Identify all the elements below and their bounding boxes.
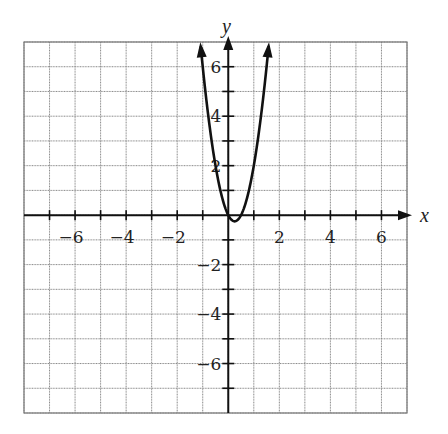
- curve-arrow-icon: [263, 42, 273, 57]
- y-axis-arrow-icon: [223, 36, 233, 50]
- y-tick-label: −6: [196, 354, 221, 374]
- parabola-curve: [197, 42, 273, 221]
- x-tick-label: −4: [110, 227, 135, 247]
- x-tick-label: 6: [376, 227, 387, 247]
- curve-arrow-icon: [197, 42, 207, 57]
- x-axis-label: x: [419, 204, 429, 226]
- x-tick-label: 4: [325, 227, 336, 247]
- y-tick-label: −4: [196, 304, 221, 324]
- x-tick-label: −6: [59, 227, 84, 247]
- x-tick-label: 2: [274, 227, 285, 247]
- y-tick-label: −2: [196, 255, 221, 275]
- x-tick-label: −2: [161, 227, 186, 247]
- y-tick-label: 4: [210, 106, 221, 126]
- parabola-graph: −6−4−2246642−2−4−6 x y: [0, 0, 448, 434]
- x-axis-arrow-icon: [398, 210, 412, 220]
- y-axis-label: y: [220, 15, 231, 38]
- y-tick-label: 6: [210, 57, 221, 77]
